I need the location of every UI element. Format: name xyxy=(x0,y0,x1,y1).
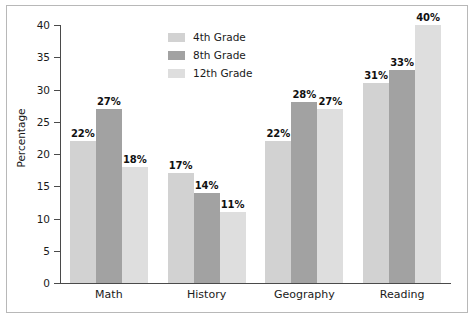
x-tick-label: History xyxy=(157,289,257,300)
legend-item: 4th Grade xyxy=(168,31,288,45)
bar-value-label: 27% xyxy=(318,97,342,107)
bar-value-label: 31% xyxy=(364,71,388,81)
x-tick-label: Geography xyxy=(254,289,354,300)
bar-value-label: 28% xyxy=(292,90,316,100)
x-axis-line xyxy=(60,283,451,284)
legend-label: 8th Grade xyxy=(193,49,246,62)
bar-group: 31%33%40% xyxy=(363,25,441,283)
legend-label: 4th Grade xyxy=(193,31,246,44)
bar: 33% xyxy=(389,70,415,283)
legend-item: 8th Grade xyxy=(168,49,288,63)
y-tick-mark xyxy=(54,283,60,284)
bar-group: 22%27%18% xyxy=(70,25,148,283)
bar: 28% xyxy=(291,102,317,283)
bar: 14% xyxy=(194,193,220,283)
legend-label: 12th Grade xyxy=(193,67,252,80)
legend-item: 12th Grade xyxy=(168,67,288,81)
bar: 18% xyxy=(122,167,148,283)
legend-swatch xyxy=(168,69,185,78)
bar: 27% xyxy=(96,109,122,283)
bar-value-label: 17% xyxy=(169,161,193,171)
bar-value-label: 18% xyxy=(123,155,147,165)
bar-value-label: 27% xyxy=(97,97,121,107)
bar-value-label: 33% xyxy=(390,58,414,68)
bar: 22% xyxy=(70,141,96,283)
legend-swatch xyxy=(168,33,185,42)
bar: 31% xyxy=(363,83,389,283)
bar: 22% xyxy=(265,141,291,283)
y-axis-title-wrap: Percentage xyxy=(0,0,50,319)
bar-value-label: 40% xyxy=(416,13,440,23)
bar: 40% xyxy=(415,25,441,283)
bar-value-label: 11% xyxy=(221,200,245,210)
bar-value-label: 22% xyxy=(266,129,290,139)
y-axis-title: Percentage xyxy=(15,93,27,183)
legend-swatch xyxy=(168,51,185,60)
bar: 11% xyxy=(220,212,246,283)
bar: 17% xyxy=(168,173,194,283)
chart-legend: 4th Grade8th Grade12th Grade xyxy=(168,31,288,85)
bar-value-label: 14% xyxy=(195,181,219,191)
bar-chart-figure: 0510152025303540 Percentage 22%27%18%17%… xyxy=(0,0,474,319)
x-tick-label: Math xyxy=(59,289,159,300)
bar: 27% xyxy=(317,109,343,283)
bar-value-label: 22% xyxy=(71,129,95,139)
x-tick-label: Reading xyxy=(352,289,452,300)
